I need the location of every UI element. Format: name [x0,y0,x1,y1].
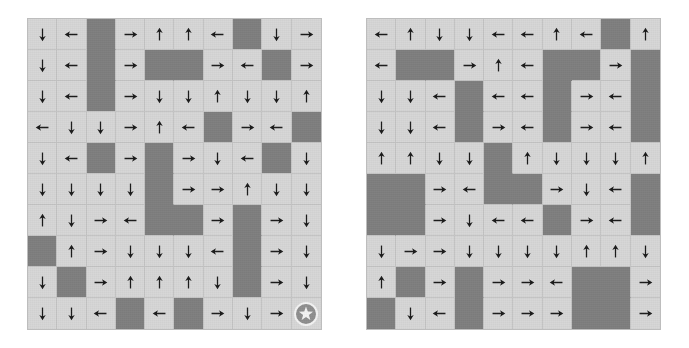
policy-cell-left[interactable] [204,19,233,50]
policy-cell-left[interactable] [426,81,455,112]
policy-cell-down[interactable] [87,174,116,205]
policy-cell-right[interactable] [87,205,116,236]
policy-cell-left[interactable] [262,112,291,143]
policy-cell-down[interactable] [396,298,425,329]
obstacle-cell[interactable] [145,143,174,174]
policy-cell-up[interactable] [174,267,203,298]
policy-cell-right[interactable] [543,298,572,329]
policy-cell-left[interactable] [484,19,513,50]
policy-cell-down[interactable] [455,143,484,174]
policy-cell-right[interactable] [601,50,630,81]
policy-cell-down[interactable] [572,174,601,205]
policy-cell-right[interactable] [87,267,116,298]
policy-cell-right[interactable] [204,205,233,236]
obstacle-cell[interactable] [426,50,455,81]
policy-cell-left[interactable] [455,174,484,205]
obstacle-cell[interactable] [396,174,425,205]
policy-cell-down[interactable] [57,205,86,236]
policy-cell-right[interactable] [204,50,233,81]
obstacle-cell[interactable] [145,205,174,236]
policy-cell-right[interactable] [513,298,542,329]
policy-cell-left[interactable] [543,267,572,298]
policy-cell-down[interactable] [174,236,203,267]
policy-cell-right[interactable] [174,143,203,174]
obstacle-cell[interactable] [572,50,601,81]
policy-cell-right[interactable] [484,298,513,329]
policy-cell-down[interactable] [28,50,57,81]
policy-cell-up[interactable] [601,236,630,267]
policy-cell-down[interactable] [116,236,145,267]
policy-cell-down[interactable] [28,267,57,298]
obstacle-cell[interactable] [292,112,321,143]
policy-cell-down[interactable] [367,112,396,143]
obstacle-cell[interactable] [455,112,484,143]
policy-cell-up[interactable] [145,112,174,143]
policy-cell-up[interactable] [367,143,396,174]
policy-cell-up[interactable] [174,19,203,50]
obstacle-cell[interactable] [57,267,86,298]
policy-cell-down[interactable] [543,143,572,174]
obstacle-cell[interactable] [601,267,630,298]
policy-cell-down[interactable] [601,143,630,174]
policy-cell-down[interactable] [484,236,513,267]
obstacle-cell[interactable] [262,143,291,174]
obstacle-cell[interactable] [543,112,572,143]
obstacle-cell[interactable] [513,174,542,205]
policy-cell-right[interactable] [116,81,145,112]
policy-cell-down[interactable] [28,298,57,329]
obstacle-cell[interactable] [174,298,203,329]
policy-cell-left[interactable] [233,143,262,174]
obstacle-cell[interactable] [145,50,174,81]
policy-cell-right[interactable] [116,19,145,50]
policy-cell-down[interactable] [631,236,660,267]
policy-cell-right[interactable] [292,50,321,81]
policy-cell-right[interactable] [87,236,116,267]
policy-cell-left[interactable] [572,19,601,50]
policy-cell-left[interactable] [601,112,630,143]
policy-cell-up[interactable] [631,143,660,174]
policy-cell-left[interactable] [513,50,542,81]
policy-cell-right[interactable] [116,143,145,174]
obstacle-cell[interactable] [572,298,601,329]
obstacle-cell[interactable] [116,298,145,329]
policy-cell-down[interactable] [262,81,291,112]
policy-cell-right[interactable] [396,236,425,267]
policy-cell-down[interactable] [572,143,601,174]
policy-cell-up[interactable] [396,143,425,174]
obstacle-cell[interactable] [484,174,513,205]
policy-cell-down[interactable] [367,236,396,267]
policy-cell-down[interactable] [292,267,321,298]
obstacle-cell[interactable] [601,19,630,50]
obstacle-cell[interactable] [543,81,572,112]
policy-cell-up[interactable] [367,267,396,298]
policy-cell-left[interactable] [484,205,513,236]
policy-cell-left[interactable] [87,298,116,329]
obstacle-cell[interactable] [87,143,116,174]
policy-cell-right[interactable] [572,81,601,112]
policy-cell-left[interactable] [233,50,262,81]
obstacle-cell[interactable] [367,205,396,236]
policy-cell-down[interactable] [28,19,57,50]
policy-cell-up[interactable] [292,81,321,112]
policy-cell-right[interactable] [116,50,145,81]
left-grid[interactable] [28,19,321,329]
policy-cell-down[interactable] [233,81,262,112]
policy-cell-down[interactable] [455,205,484,236]
policy-cell-down[interactable] [426,19,455,50]
policy-cell-down[interactable] [145,81,174,112]
policy-cell-up[interactable] [572,236,601,267]
policy-cell-up[interactable] [145,267,174,298]
policy-cell-left[interactable] [57,143,86,174]
policy-cell-down[interactable] [57,112,86,143]
policy-cell-left[interactable] [204,236,233,267]
policy-cell-right[interactable] [262,205,291,236]
policy-cell-left[interactable] [601,81,630,112]
policy-cell-up[interactable] [631,19,660,50]
policy-cell-left[interactable] [367,50,396,81]
obstacle-cell[interactable] [233,19,262,50]
policy-cell-right[interactable] [204,298,233,329]
obstacle-cell[interactable] [87,19,116,50]
obstacle-cell[interactable] [233,267,262,298]
policy-cell-left[interactable] [116,205,145,236]
policy-cell-left[interactable] [513,112,542,143]
